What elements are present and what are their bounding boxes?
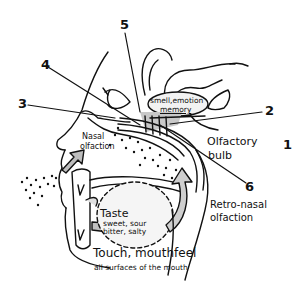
callout-number-5: 5 <box>120 18 129 31</box>
nasal-olfaction-label-line2: olfaction <box>80 143 115 151</box>
callout-number-1: 1 <box>283 138 292 151</box>
callout-number-2: 2 <box>265 104 274 117</box>
nasal-olfaction-label-line1: Nasal <box>82 133 104 141</box>
taste-types-line2: bitter, salty <box>103 228 146 236</box>
callout-number-4: 4 <box>41 58 50 71</box>
olfactory-bulb-label-line1: Olfactory <box>207 136 257 147</box>
touch-mouthfeel-subtitle: all surfaces of the mouth <box>94 264 188 272</box>
retronasal-airflow-arrow <box>166 168 192 232</box>
retronasal-label-line1: Retro-nasal <box>210 200 267 210</box>
brain-region-label-line2: memory <box>160 106 191 114</box>
retronasal-label-line2: olfaction <box>210 213 253 223</box>
olfactory-bulb-label-line2: bulb <box>208 150 232 161</box>
taste-title: Taste <box>100 208 128 219</box>
callout-number-3: 3 <box>18 97 27 110</box>
eye-drawing <box>103 88 130 108</box>
touch-mouthfeel-title: Touch, mouthfeel <box>93 247 196 259</box>
brain-region-label-line1: smell,emotion <box>150 97 203 105</box>
callout-number-6: 6 <box>245 180 254 193</box>
